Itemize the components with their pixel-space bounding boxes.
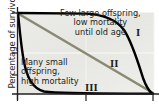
curve-label-numeral-one: I [136, 28, 140, 38]
curve-label-numeral-two: II [110, 59, 118, 69]
annotation-type-3: Many small offspring, high mortality [21, 58, 79, 86]
annotation-type-3-line-3: high mortality [21, 77, 79, 86]
survivorship-curve-figure: Percentage of survivors Few large offspr… [0, 0, 159, 107]
curve-label-numeral-three: III [85, 83, 98, 93]
annotation-type-1: Few large offspring, low mortality until… [60, 9, 141, 37]
annotation-type-1-line-3: until old age [60, 28, 141, 37]
axis-y-label: Percentage of survivors [7, 0, 17, 89]
